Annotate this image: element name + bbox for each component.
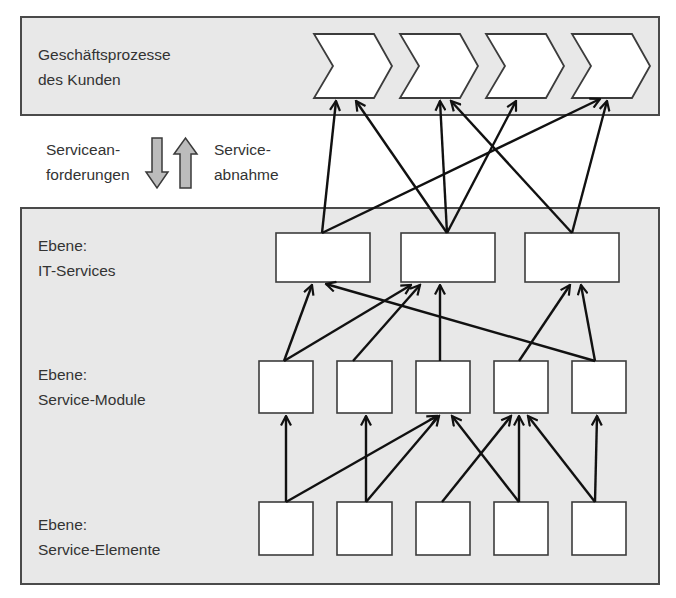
arrow-m1-it1 [284,285,312,361]
arrow-m4-it3 [519,285,570,361]
process-step-4-chevron [572,34,650,98]
service-module-box-5 [572,361,626,413]
arrow-e5-m5 [595,416,597,502]
up-arrow-icon [174,138,197,188]
service-module-box-1 [259,361,313,413]
service-element-box-5 [572,502,626,555]
arrow-it1-p4 [322,99,600,233]
arrow-it2-p1 [356,101,447,233]
service-element-box-4 [494,502,548,555]
arrow-it3-p4 [572,101,607,233]
service-element-box-1 [259,502,313,555]
service-module-box-3 [416,361,470,413]
process-step-3-chevron [486,34,564,98]
process-chevrons [314,34,650,98]
modules-to-it-services-arrows [284,284,595,361]
arrow-m5-it1 [326,284,595,361]
arrow-e4-m3 [452,416,519,502]
it-service-box-1 [276,233,370,282]
it-services-to-process-arrows [322,99,607,233]
arrow-m5-it3 [581,285,595,361]
process-step-1-chevron [314,34,392,98]
arrow-e3-m4 [442,416,511,502]
service-module-box-4 [494,361,548,413]
service-module-boxes [259,361,626,413]
elements-to-modules-arrows [286,416,597,502]
arrow-m1-it2 [284,285,411,361]
process-step-2-chevron [400,34,478,98]
down-arrow-icon [146,138,168,188]
it-service-box-2 [401,233,495,282]
it-services-boxes [276,233,619,282]
service-element-box-2 [337,502,392,555]
arrow-e2-m3 [366,416,439,502]
service-module-box-2 [337,361,392,413]
service-element-box-3 [416,502,470,555]
arrow-it2-p2 [440,101,447,233]
service-element-boxes [259,502,626,555]
arrow-e5-m4 [528,416,595,502]
service-hierarchy-diagram [0,0,676,598]
arrow-e1-m3 [286,416,437,502]
it-service-box-3 [525,233,619,282]
arrow-m2-it2 [353,285,420,361]
arrow-it1-p1 [322,101,336,233]
